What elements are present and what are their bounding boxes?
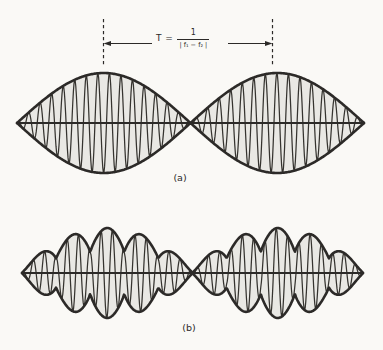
waveform-b-label: (b) (182, 322, 195, 333)
beats-figure: (a) (b) T = 1 | f₁ − f₂ | (0, 0, 383, 350)
waveform-b (22, 228, 363, 318)
formula-fraction: 1 | f₁ − f₂ | (177, 29, 209, 49)
waveform-a (17, 73, 364, 173)
formula-denominator: | f₁ − f₂ | (177, 39, 209, 49)
waveform-layers (17, 73, 364, 318)
arrowhead-left-icon (104, 41, 112, 46)
waveform-a-label: (a) (173, 172, 186, 183)
formula-numerator: 1 (188, 29, 199, 39)
beat-period-formula: T = 1 | f₁ − f₂ | (156, 29, 209, 49)
formula-lhs: T = (156, 34, 173, 43)
arrowhead-right-icon (265, 41, 273, 46)
figure-canvas: (a) (b) (0, 0, 383, 350)
